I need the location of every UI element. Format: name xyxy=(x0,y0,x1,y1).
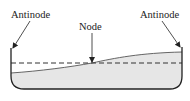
standing-wave-diagram: Antinode Node Antinode xyxy=(0,0,190,101)
node-label: Node xyxy=(79,21,102,32)
left-antinode-label: Antinode xyxy=(11,9,50,20)
right-antinode-label: Antinode xyxy=(140,9,179,20)
left-antinode-arrow xyxy=(13,21,30,48)
right-antinode-arrow xyxy=(162,21,180,47)
